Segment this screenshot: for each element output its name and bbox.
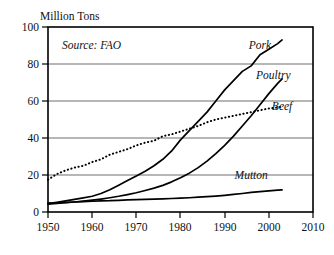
x-tick-label-2010: 2010 — [302, 221, 325, 233]
x-tick-label-1980: 1980 — [169, 221, 192, 233]
x-tick-label-1990: 1990 — [214, 221, 237, 233]
y-tick-label-40: 40 — [28, 132, 40, 144]
x-tick-label-1950: 1950 — [37, 221, 60, 233]
y-tick-label-60: 60 — [28, 95, 40, 107]
series-label-pork: Pork — [248, 39, 272, 51]
series-label-beef: Beef — [272, 100, 294, 113]
y-axis-title: Million Tons — [40, 10, 100, 22]
chart-svg: Million Tons 100 80 60 40 20 0 — [0, 0, 334, 255]
series-label-poultry: Poultry — [255, 69, 291, 82]
series-label-mutton: Mutton — [234, 169, 268, 181]
source-note: Source: FAO — [62, 39, 122, 51]
y-tick-label-80: 80 — [28, 58, 40, 70]
line-chart-meat-production: Million Tons 100 80 60 40 20 0 — [0, 0, 334, 255]
x-tick-label-1960: 1960 — [81, 221, 104, 233]
y-tick-label-20: 20 — [28, 169, 40, 181]
y-tick-label-0: 0 — [33, 206, 39, 218]
y-tick-label-100: 100 — [22, 21, 40, 33]
chart-background — [0, 0, 334, 255]
x-tick-label-1970: 1970 — [125, 221, 148, 233]
x-tick-label-2000: 2000 — [258, 221, 281, 233]
